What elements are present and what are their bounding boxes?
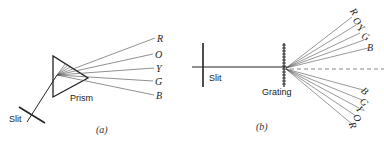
grating-label: Grating [262,87,292,97]
caption-b: (b) [256,121,268,133]
spectrum-label-b-upper-b: B [367,42,373,53]
spectrum-label-a-o: O [155,49,162,60]
panel-b-grating: Slit Grating R O Y G B B G Y O R (b) [192,5,384,133]
caption-a: (a) [96,124,108,136]
spectrum-label-a-r: R [156,33,163,44]
spectrum-label-a-y: Y [156,63,163,74]
prism-label: Prism [70,93,93,103]
slit-label-b: Slit [209,73,222,83]
spectrum-label-a-g: G [155,76,162,87]
dispersion-diagram: Slit Prism R O Y G B (a) [0,0,384,141]
spectrum-label-a-b: B [156,90,162,101]
slit-label-a: Slit [9,114,22,124]
panel-a-prism: Slit Prism R O Y G B (a) [9,33,163,136]
spectrum-label-b-lower-b: B [359,85,371,97]
